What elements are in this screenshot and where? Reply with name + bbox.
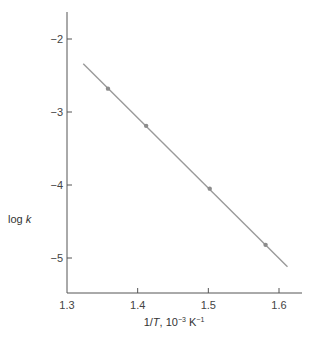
x-tick-label: 1.5 — [201, 299, 216, 311]
y-tick-label: −3 — [50, 106, 63, 118]
x-tick-label: 1.3 — [59, 299, 74, 311]
y-tick-label: −5 — [50, 252, 63, 264]
x-tick-label: 1.4 — [130, 299, 145, 311]
y-tick-label: −4 — [50, 179, 63, 191]
data-series — [83, 64, 287, 267]
x-axis-ticks: 1.31.41.51.6 — [59, 288, 286, 311]
fit-line — [83, 64, 287, 267]
chart: −2−3−4−5 1.31.41.51.6 log k 1/T, 10−3 K−… — [0, 0, 312, 337]
data-point — [208, 186, 212, 190]
data-point — [144, 124, 148, 128]
x-axis-label: 1/T, 10−3 K−1 — [144, 316, 205, 328]
data-point — [263, 243, 267, 247]
data-point — [106, 86, 110, 90]
axes — [67, 12, 302, 293]
x-tick-label: 1.6 — [271, 299, 286, 311]
y-axis-ticks: −2−3−4−5 — [50, 33, 72, 264]
y-axis-label: log k — [8, 213, 32, 225]
y-tick-label: −2 — [50, 33, 63, 45]
